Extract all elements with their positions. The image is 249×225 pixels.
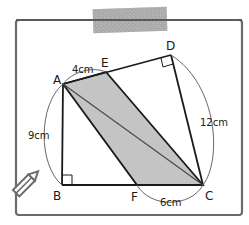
vertex-label-D: D [166,39,175,53]
measurement-DC: 12cm [200,117,228,128]
vertex-label-E: E [101,56,109,70]
vertex-label-B: B [53,189,61,203]
measurement-AE: 4cm [72,64,94,75]
measurement-FC: 6cm [160,197,182,208]
vertex-label-C: C [205,189,213,203]
vertex-label-F: F [131,190,138,204]
geometry-diagram: A B C D E F 4cm 9cm 12cm 6cm [0,0,249,225]
measurement-AB: 9cm [28,130,50,141]
vertex-label-A: A [53,73,62,87]
